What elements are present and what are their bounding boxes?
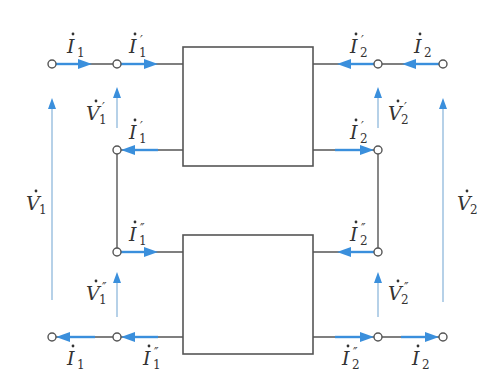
- svg-text:1: 1: [77, 358, 85, 372]
- svg-text:I: I: [128, 223, 137, 245]
- arrow-up-icon: [374, 87, 382, 98]
- svg-text:2: 2: [360, 234, 368, 248]
- label-i1-bottom: I 1: [66, 345, 85, 372]
- label-v2: V 2: [457, 190, 478, 217]
- arrow-left-icon: [337, 59, 351, 69]
- terminal-upper-port2-top: [374, 60, 382, 68]
- arrow-right-icon: [78, 59, 92, 69]
- terminal-lower-port1-top: [113, 248, 121, 256]
- svg-text:2: 2: [360, 132, 368, 146]
- svg-text:″: ″: [140, 222, 145, 236]
- label-i1-top: I 1: [66, 33, 85, 60]
- terminal-port2-bottom: [439, 333, 447, 341]
- svg-text:2: 2: [422, 358, 430, 372]
- arrow-left-icon: [121, 145, 135, 155]
- svg-text:1: 1: [139, 132, 147, 146]
- svg-text:I: I: [341, 347, 350, 369]
- svg-text:I: I: [413, 35, 422, 57]
- svg-text:2: 2: [424, 46, 432, 60]
- svg-text:I: I: [349, 35, 358, 57]
- label-i2-top: I 2: [413, 33, 432, 60]
- svg-text:′: ′: [404, 101, 407, 115]
- terminal-lower-port1-bottom: [113, 333, 121, 341]
- svg-text:I: I: [66, 347, 75, 369]
- svg-text:′: ′: [102, 101, 105, 115]
- label-v1-double-prime: V 1 ″: [86, 280, 107, 307]
- arrow-up-icon: [113, 87, 121, 98]
- svg-text:I: I: [349, 121, 358, 143]
- svg-text:1: 1: [99, 113, 107, 127]
- arrow-up-icon: [374, 272, 382, 283]
- terminal-port1-bottom: [48, 333, 56, 341]
- label-v2-prime: V 2 ′: [388, 100, 409, 127]
- terminal-upper-port1-top: [113, 60, 121, 68]
- arrow-left-icon: [121, 332, 135, 342]
- label-i2-double-prime-mid: I 2 ″: [349, 221, 368, 248]
- arrow-right-icon: [425, 332, 439, 342]
- svg-text:I: I: [411, 347, 420, 369]
- svg-text:1: 1: [39, 203, 47, 217]
- svg-text:′: ′: [140, 120, 143, 134]
- svg-text:′: ′: [140, 34, 143, 48]
- arrow-left-icon: [402, 59, 416, 69]
- svg-text:2: 2: [470, 203, 478, 217]
- label-i1-prime-top: I 1 ′: [128, 33, 147, 60]
- svg-text:2: 2: [360, 46, 368, 60]
- arrow-up-icon: [48, 98, 56, 109]
- svg-text:″: ″: [154, 346, 159, 360]
- terminal-port1-top: [48, 60, 56, 68]
- svg-text:1: 1: [139, 234, 147, 248]
- svg-text:I: I: [349, 223, 358, 245]
- label-v1-prime: V 1 ′: [86, 100, 107, 127]
- label-i2-prime-top: I 2 ′: [349, 33, 368, 60]
- svg-text:I: I: [66, 35, 75, 57]
- label-i1-double-prime-mid: I 1 ″: [128, 221, 147, 248]
- lower-two-port-network: [183, 235, 313, 354]
- svg-text:″: ″: [404, 281, 409, 295]
- svg-text:″: ″: [353, 346, 358, 360]
- svg-text:′: ′: [361, 34, 364, 48]
- svg-text:I: I: [142, 347, 151, 369]
- arrow-right-icon: [144, 247, 158, 257]
- svg-text:″: ″: [102, 281, 107, 295]
- label-i2-prime-mid: I 2 ′: [349, 119, 368, 146]
- label-i1-double-prime-bottom: I 1 ″: [142, 345, 161, 372]
- label-v2-double-prime: V 2 ″: [388, 280, 409, 307]
- label-v1: V 1: [26, 190, 47, 217]
- arrow-right-icon: [144, 59, 158, 69]
- svg-text:2: 2: [401, 293, 409, 307]
- arrow-up-icon: [113, 272, 121, 283]
- terminal-port2-top: [439, 60, 447, 68]
- svg-text:2: 2: [352, 358, 360, 372]
- two-port-series-diagram: I 1 I 1 ′ I 2 ′ I 2 V 1 ′: [0, 0, 495, 392]
- svg-text:′: ′: [361, 120, 364, 134]
- terminal-lower-port2-bottom: [374, 333, 382, 341]
- svg-text:I: I: [128, 35, 137, 57]
- terminal-upper-port2-bottom: [374, 146, 382, 154]
- terminal-lower-port2-top: [374, 248, 382, 256]
- svg-text:1: 1: [99, 293, 107, 307]
- terminal-upper-port1-bottom: [113, 146, 121, 154]
- label-i2-double-prime-bottom: I 2 ″: [341, 345, 360, 372]
- svg-text:1: 1: [139, 46, 147, 60]
- label-i1-prime-mid: I 1 ′: [128, 119, 147, 146]
- svg-text:2: 2: [401, 113, 409, 127]
- arrow-right-icon: [360, 145, 374, 155]
- arrow-up-icon: [439, 98, 447, 109]
- label-i2-bottom: I 2: [411, 345, 430, 372]
- arrow-right-icon: [360, 332, 374, 342]
- svg-text:″: ″: [361, 222, 366, 236]
- arrow-left-icon: [337, 247, 351, 257]
- svg-text:I: I: [128, 121, 137, 143]
- svg-text:1: 1: [77, 46, 85, 60]
- arrow-left-icon: [56, 332, 70, 342]
- svg-text:1: 1: [153, 358, 161, 372]
- upper-two-port-network: [183, 47, 313, 166]
